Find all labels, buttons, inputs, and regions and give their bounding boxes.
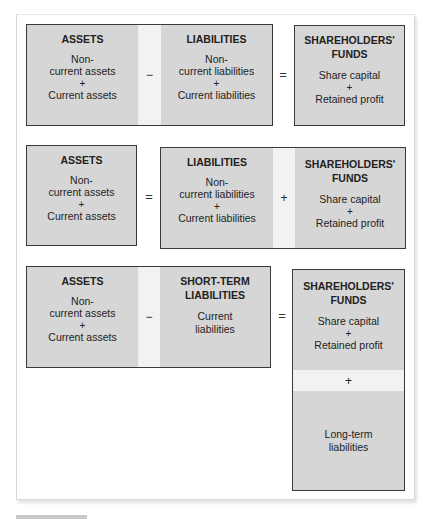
row1-funds-line1: Share capital xyxy=(319,69,380,82)
row1-liabilities-plus: + xyxy=(214,78,220,89)
minus-operator: − xyxy=(146,68,153,82)
row3-long-term-line1: Long-term xyxy=(325,428,373,441)
plus-operator: + xyxy=(345,374,352,388)
row3-assets-minus-short-term-box: ASSETS Non- current assets + Current ass… xyxy=(26,266,271,368)
caption-bar xyxy=(16,515,87,519)
row3-short-term-line1: Current xyxy=(197,310,232,323)
row2-funds-title: SHAREHOLDERS' FUNDS xyxy=(305,158,396,185)
row3-assets-line2: current assets xyxy=(50,307,116,320)
row3-funds-title: SHAREHOLDERS' FUNDS xyxy=(303,280,394,307)
row1-funds-title: SHAREHOLDERS' FUNDS xyxy=(304,34,395,61)
row2-funds-column: SHAREHOLDERS' FUNDS Share capital + Reta… xyxy=(295,148,405,248)
row3-short-term-line2: liabilities xyxy=(195,323,235,336)
row1-assets-column: ASSETS Non- current assets + Current ass… xyxy=(27,25,138,125)
row1-funds-column: SHAREHOLDERS' FUNDS Share capital + Reta… xyxy=(295,26,404,125)
row3-funds-plus-long-term-box: SHAREHOLDERS' FUNDS Share capital + Reta… xyxy=(292,269,405,491)
row3-funds-title2: FUNDS xyxy=(303,294,394,308)
row2-liabilities-line2: current liabilities xyxy=(179,188,254,201)
row2-liabilities-line3: Current liabilities xyxy=(178,212,256,225)
row2-assets-title: ASSETS xyxy=(60,154,102,168)
row1-funds-plus: + xyxy=(347,82,353,93)
row2-funds-plus: + xyxy=(347,206,353,217)
row1-assets-minus-liabilities-box: ASSETS Non- current assets + Current ass… xyxy=(26,24,273,126)
row2-assets-line2: current assets xyxy=(49,186,115,199)
row2-liabilities-column: LIABILITIES Non- current liabilities + C… xyxy=(161,148,273,248)
row3-short-term-title2: LIABILITIES xyxy=(180,289,249,303)
row3-plus-strip: + xyxy=(293,370,404,391)
row2-liabilities-plus-funds-box: LIABILITIES Non- current liabilities + C… xyxy=(160,147,406,249)
row3-funds-line1: Share capital xyxy=(318,315,379,328)
row2-assets-box: ASSETS Non- current assets + Current ass… xyxy=(26,145,137,246)
plus-operator: + xyxy=(280,191,287,205)
row2-assets-plus: + xyxy=(79,199,85,210)
row1-assets-title: ASSETS xyxy=(61,33,103,47)
row3-assets-line1: Non- xyxy=(71,295,94,308)
row1-minus-strip: − xyxy=(138,25,161,125)
row1-liabilities-line1: Non- xyxy=(205,53,228,66)
row1-liabilities-column: LIABILITIES Non- current liabilities + C… xyxy=(161,25,272,125)
row2-assets-line1: Non- xyxy=(70,174,93,187)
row2-plus-strip: + xyxy=(273,148,295,248)
row3-assets-line3: Current assets xyxy=(48,331,116,344)
row1-equals-operator: = xyxy=(273,67,293,82)
row2-liabilities-plus: + xyxy=(214,201,220,212)
row3-funds-line2: Retained profit xyxy=(314,339,382,352)
row2-funds-title1: SHAREHOLDERS' xyxy=(305,158,396,172)
row3-equals-operator: = xyxy=(272,308,292,323)
row1-assets-line1: Non- xyxy=(71,53,94,66)
row1-liabilities-line2: current liabilities xyxy=(179,65,254,78)
row3-minus-strip: − xyxy=(138,267,160,367)
row3-long-term-column: Long-term liabilities xyxy=(293,391,404,490)
row3-short-term-title: SHORT-TERM LIABILITIES xyxy=(180,275,249,302)
row3-assets-plus: + xyxy=(80,320,86,331)
row3-funds-plus: + xyxy=(346,328,352,339)
row1-funds-box: SHAREHOLDERS' FUNDS Share capital + Reta… xyxy=(294,25,405,126)
row1-funds-title2: FUNDS xyxy=(304,48,395,62)
row2-funds-line2: Retained profit xyxy=(316,217,384,230)
row3-assets-column: ASSETS Non- current assets + Current ass… xyxy=(27,267,138,367)
row1-liabilities-title: LIABILITIES xyxy=(186,33,246,47)
row2-liabilities-line1: Non- xyxy=(206,176,229,189)
row2-funds-title2: FUNDS xyxy=(305,172,396,186)
row3-funds-title1: SHAREHOLDERS' xyxy=(303,280,394,294)
row2-equals-operator: = xyxy=(139,189,159,204)
row3-assets-title: ASSETS xyxy=(61,275,103,289)
row3-funds-column: SHAREHOLDERS' FUNDS Share capital + Reta… xyxy=(293,270,404,370)
row3-short-term-column: SHORT-TERM LIABILITIES Current liabiliti… xyxy=(160,267,270,367)
row1-funds-title1: SHAREHOLDERS' xyxy=(304,34,395,48)
row3-short-term-title1: SHORT-TERM xyxy=(180,275,249,289)
row1-assets-plus: + xyxy=(80,78,86,89)
row2-assets-line3: Current assets xyxy=(47,210,115,223)
row1-funds-line2: Retained profit xyxy=(315,93,383,106)
row3-long-term-line2: liabilities xyxy=(329,441,369,454)
row1-assets-line2: current assets xyxy=(50,65,116,78)
row1-assets-line3: Current assets xyxy=(48,89,116,102)
row1-liabilities-line3: Current liabilities xyxy=(178,89,256,102)
row2-funds-line1: Share capital xyxy=(319,193,380,206)
minus-operator: − xyxy=(145,310,152,324)
row2-assets-column: ASSETS Non- current assets + Current ass… xyxy=(27,146,136,245)
row2-liabilities-title: LIABILITIES xyxy=(187,156,247,170)
